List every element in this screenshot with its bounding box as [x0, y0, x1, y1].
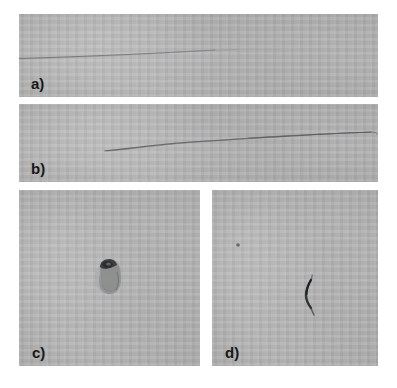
micrograph-panel-a [19, 14, 378, 97]
micrograph-panel-b [19, 104, 378, 182]
micrograph-panel-d [212, 190, 378, 366]
panel-d-background-texture [212, 190, 378, 366]
figure-container: a) b) c) [0, 0, 397, 388]
panel-label-b: b) [31, 161, 45, 176]
panel-b-background-texture [19, 104, 378, 182]
panel-label-d: d) [225, 345, 239, 360]
panel-label-c: c) [32, 345, 45, 360]
panel-a-background-texture [19, 14, 378, 97]
panel-label-a: a) [31, 76, 44, 91]
panel-c-background-texture [19, 190, 200, 366]
micrograph-panel-c [19, 190, 200, 366]
